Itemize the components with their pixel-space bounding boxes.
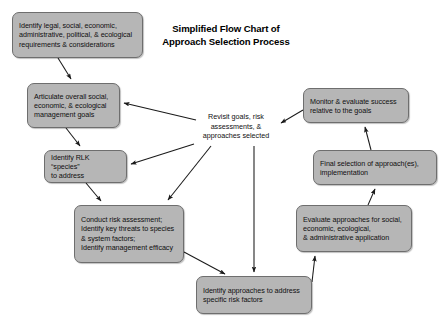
node-monitor-label: Monitor & evaluate success relative to t… — [304, 96, 408, 115]
flow-chart-figure: Simplified Flow Chart of Approach Select… — [0, 0, 441, 325]
page-title: Simplified Flow Chart of Approach Select… — [126, 22, 326, 48]
edge-revisit-to-goals — [124, 103, 196, 120]
node-final-selection-label: Final selection of approach(es), impleme… — [314, 158, 436, 177]
edge-monitor-to-revisit — [281, 110, 303, 123]
node-considerations[interactable]: Identify legal, social, economic, admini… — [12, 12, 143, 58]
edge-approaches-to-evaluate — [312, 256, 315, 282]
node-final-selection[interactable]: Final selection of approach(es), impleme… — [313, 150, 437, 185]
edge-goals-to-rlk — [66, 128, 80, 146]
node-risk-assessment[interactable]: Conduct risk assessment; Identify key th… — [74, 205, 184, 263]
node-monitor[interactable]: Monitor & evaluate success relative to t… — [303, 88, 409, 123]
edge-risk-to-approaches — [184, 252, 225, 274]
node-evaluate-label: Evaluate approaches for social, economic… — [297, 214, 411, 242]
label-revisit-goals: Revisit goals, risk assessments, & appro… — [196, 112, 276, 141]
node-approaches[interactable]: Identify approaches to address specific … — [196, 276, 312, 314]
edge-final-to-monitor — [365, 127, 371, 150]
node-approaches-label: Identify approaches to address specific … — [197, 286, 311, 305]
edge-considerations-to-goals — [58, 58, 71, 79]
node-goals[interactable]: Articulate overall social, economic, & e… — [27, 83, 120, 128]
node-rlk-species-label: Identify RLK “species” to address — [45, 152, 126, 180]
edge-rlk-to-risk — [86, 183, 101, 201]
edge-evaluate-to-final — [368, 189, 375, 205]
node-risk-assessment-label: Conduct risk assessment; Identify key th… — [75, 215, 183, 253]
node-evaluate[interactable]: Evaluate approaches for social, economic… — [296, 205, 412, 252]
node-rlk-species[interactable]: Identify RLK “species” to address — [44, 150, 127, 183]
node-goals-label: Articulate overall social, economic, & e… — [28, 91, 119, 119]
edge-revisit-to-rlk — [131, 144, 194, 164]
node-considerations-label: Identify legal, social, economic, admini… — [13, 21, 142, 49]
edge-revisit-to-risk — [168, 146, 211, 200]
